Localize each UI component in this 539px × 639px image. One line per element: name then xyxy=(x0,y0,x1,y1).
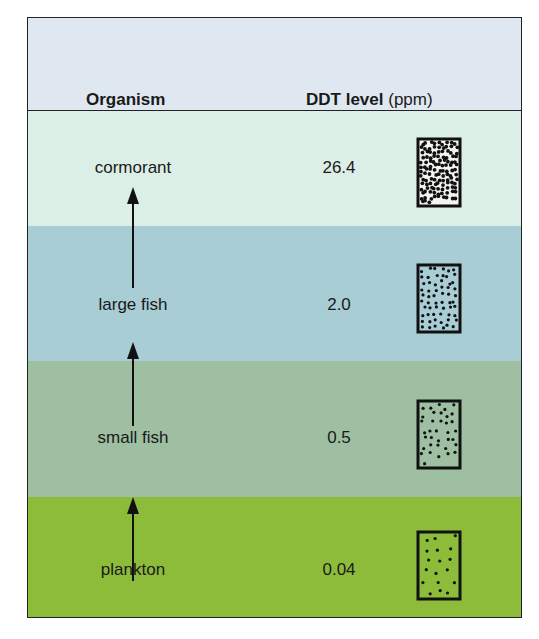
ddt-particle xyxy=(444,447,447,450)
organism-name: small fish xyxy=(28,428,238,448)
ddt-particle xyxy=(434,302,437,305)
ddt-particle xyxy=(443,408,446,411)
ddt-particle xyxy=(454,294,457,297)
ddt-particle xyxy=(422,407,425,410)
ddt-particle xyxy=(442,274,445,277)
ddt-particle xyxy=(445,421,448,424)
ddt-particle xyxy=(447,318,450,321)
ddt-particle xyxy=(448,283,451,286)
ddt-particle xyxy=(446,160,450,164)
ddt-particle xyxy=(450,144,454,148)
ddt-particle xyxy=(447,286,450,289)
ddt-particle xyxy=(451,281,454,284)
ddt-particle xyxy=(425,550,428,553)
ddt-particle xyxy=(451,301,454,304)
ddt-particle xyxy=(436,181,440,185)
ddt-biomagnification-table: Organism DDT level (ppm) cormorant 26.4 … xyxy=(27,17,522,618)
ddt-particle xyxy=(437,145,441,149)
ddt-particle xyxy=(441,183,445,187)
ddt-particle xyxy=(428,326,431,329)
ddt-particle xyxy=(429,182,433,186)
ddt-particle xyxy=(453,305,456,308)
ddt-particle xyxy=(421,151,425,155)
ddt-particle xyxy=(428,172,432,176)
ddt-particle xyxy=(445,191,449,195)
ddt-particle xyxy=(430,197,434,201)
ddt-particle xyxy=(436,187,440,191)
ddt-particle xyxy=(444,145,448,149)
row-cormorant: cormorant 26.4 xyxy=(28,111,521,226)
ddt-particle xyxy=(428,306,431,309)
ddt-value: 2.0 xyxy=(304,295,374,315)
ddt-particle xyxy=(449,151,453,155)
ddt-particle xyxy=(425,183,429,187)
ddt-value: 26.4 xyxy=(304,158,374,178)
ddt-particle xyxy=(453,314,456,317)
ddt-particle xyxy=(453,273,456,276)
ddt-particle xyxy=(442,307,445,310)
ddt-particle xyxy=(451,438,454,441)
ddt-particle xyxy=(446,568,449,571)
ddt-particle xyxy=(436,444,439,447)
ddt-particle xyxy=(445,415,448,418)
ddt-particle xyxy=(453,287,456,290)
ddt-particle xyxy=(434,537,437,540)
ddt-particle xyxy=(431,419,434,422)
concentration-box xyxy=(416,530,462,601)
ddt-particle xyxy=(437,455,440,458)
ddt-particle xyxy=(437,172,441,176)
ddt-particle xyxy=(445,324,448,327)
ddt-particle xyxy=(453,142,457,146)
ddt-particle xyxy=(449,547,452,550)
ddt-particle xyxy=(455,177,459,181)
ddt-particle xyxy=(440,143,444,147)
ddt-particle xyxy=(422,282,425,285)
ddt-particle xyxy=(429,592,432,595)
ddt-particle xyxy=(427,289,430,292)
ddt-particle xyxy=(453,182,457,186)
ddt-particle xyxy=(434,572,437,575)
ddt-particle xyxy=(447,438,450,441)
ddt-particle xyxy=(454,429,457,432)
ddt-particle xyxy=(439,419,442,422)
ddt-particle xyxy=(421,325,424,328)
ddt-particle xyxy=(438,559,441,562)
ddt-particle xyxy=(435,429,438,432)
ddt-particle xyxy=(454,190,458,194)
organism-name: plankton xyxy=(28,560,238,580)
ddt-particle xyxy=(436,154,440,158)
concentration-box xyxy=(416,263,462,334)
ddt-particle xyxy=(420,270,423,273)
ddt-particle xyxy=(440,286,443,289)
ddt-particle xyxy=(428,167,432,171)
ddt-particle xyxy=(453,581,456,584)
ddt-particle xyxy=(432,313,435,316)
ddt-particle xyxy=(436,549,439,552)
ddt-particle xyxy=(425,155,429,159)
ddt-particle xyxy=(454,443,457,446)
ddt-particle xyxy=(447,293,450,296)
ddt-label: DDT level xyxy=(306,90,383,109)
ddt-particle xyxy=(453,451,456,454)
ddt-particle xyxy=(437,150,441,154)
ddt-particle xyxy=(427,301,430,304)
ddt-particle xyxy=(445,140,449,144)
ddt-particle xyxy=(432,187,436,191)
ddt-particle xyxy=(441,169,445,173)
ddt-particle xyxy=(425,167,429,171)
ddt-particle xyxy=(454,155,458,159)
ddt-particle xyxy=(425,568,428,571)
ddt-particle xyxy=(446,431,449,434)
ddt-particle xyxy=(435,305,438,308)
ddt-particle xyxy=(420,452,423,455)
ddt-particle xyxy=(429,190,433,194)
ddt-particle xyxy=(438,403,441,406)
ddt-particle xyxy=(445,275,448,278)
ddt-particle xyxy=(452,268,455,271)
ddt-particle xyxy=(433,168,437,172)
ddt-particle xyxy=(423,305,426,308)
ddt-particle xyxy=(423,190,427,194)
ddt-particle xyxy=(421,320,424,323)
ddt-particle xyxy=(454,173,458,177)
concentration-box xyxy=(416,137,462,208)
